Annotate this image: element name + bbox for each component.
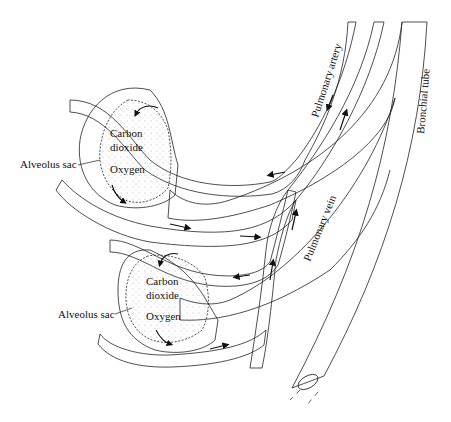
upper-alveolus-leader [78,160,100,165]
lower-alveolus-label: Alveolus sac [58,308,115,320]
lower-o2-label: Oxygen [146,310,181,322]
lower-co2-label-2: dioxide [146,289,179,301]
bronchiole-upper [168,22,402,220]
pulmonary-vein-label: Pulmonary vein [301,193,339,263]
bronchiole-lower [180,98,395,320]
lower-alveolus-sac [118,250,218,353]
vein-arrow-icon [170,224,188,228]
vein-arrow-icon [340,112,346,130]
upper-o2-label: Oxygen [110,163,145,175]
vein-arrow-icon [270,262,273,280]
upper-co2-label-2: dioxide [110,141,143,153]
vein-arrow-icon [240,236,258,237]
bronchial-tube [290,22,427,406]
vein-arrow-icon [292,212,296,230]
alveolus-diagram: Carbon dioxide Oxygen Alveolus sac Carbo… [0,0,451,422]
lower-co2-label: Carbon [146,275,179,287]
upper-co2-label: Carbon [110,127,143,139]
bronchial-tube-label: Bronchial tube [414,68,432,134]
upper-alveolus-label: Alveolus sac [20,158,77,170]
